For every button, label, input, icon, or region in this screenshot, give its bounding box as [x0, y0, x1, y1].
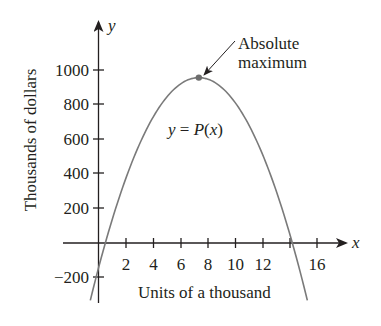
svg-text:4: 4 — [149, 255, 158, 274]
svg-text:16: 16 — [309, 255, 326, 274]
svg-text:200: 200 — [64, 199, 90, 218]
svg-text:12: 12 — [255, 255, 272, 274]
svg-text:10: 10 — [227, 255, 244, 274]
svg-text:6: 6 — [177, 255, 186, 274]
svg-text:2: 2 — [122, 255, 131, 274]
x-tick-labels: 2 4 6 8 10 12 16 — [122, 255, 326, 274]
curve-label: y = P(x) — [166, 120, 223, 139]
svg-text:600: 600 — [64, 130, 90, 149]
y-tick-labels: −200 200 400 600 800 1000 — [54, 61, 89, 287]
x-axis-symbol: x — [351, 233, 360, 252]
y-axis-symbol: y — [106, 16, 116, 35]
profit-chart: Thousands of dollars x y 2 4 6 8 10 12 1… — [0, 0, 381, 326]
absolute-maximum-point — [196, 74, 202, 80]
svg-text:800: 800 — [64, 95, 90, 114]
svg-text:Thousands of dollars: Thousands of dollars — [21, 69, 40, 212]
svg-text:400: 400 — [64, 164, 90, 183]
annotation-maximum: maximum — [238, 53, 307, 72]
svg-text:8: 8 — [204, 255, 213, 274]
x-axis-title: Units of a thousand — [138, 283, 271, 302]
y-axis-title: Thousands of dollars — [21, 69, 40, 212]
annotation-arrow — [204, 41, 235, 75]
svg-text:1000: 1000 — [55, 61, 89, 80]
annotation-absolute: Absolute — [238, 34, 299, 53]
svg-text:−200: −200 — [54, 268, 89, 287]
